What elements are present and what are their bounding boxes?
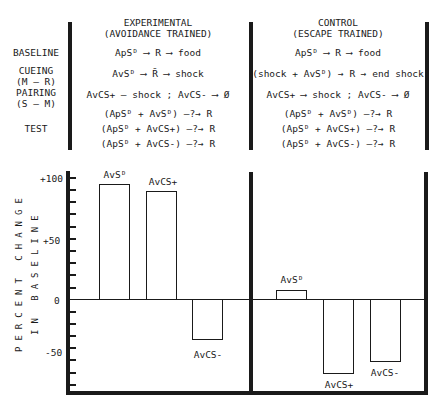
y-tick-label-neg50: -50 <box>45 348 62 358</box>
y-tick-label-100: +100 <box>40 174 63 184</box>
experimental-test-1: (ApSᴰ + AvSᴰ) —?→ R <box>104 109 213 119</box>
experimental-title: EXPERIMENTAL <box>124 18 193 28</box>
bar-label-experimental-avcs-plus: AvCS+ <box>149 177 178 187</box>
control-title: CONTROL <box>318 18 358 28</box>
row-label-cueing: CUEING <box>19 66 53 76</box>
experimental-test-2: (ApSᴰ + AvCS+) —?→ R <box>101 124 215 134</box>
table-divider-left <box>68 22 72 150</box>
row-label-pairing: PAIRING <box>16 88 56 98</box>
bar-control-avcs-minus <box>370 299 401 362</box>
bar-label-control-avcs-minus: AvCS- <box>371 368 400 378</box>
y-axis-label-line1: PERCENT CHANGE <box>14 192 24 352</box>
control-subtitle: (ESCAPE TRAINED) <box>292 29 384 39</box>
bar-label-control-avcs-plus: AvCS+ <box>325 380 354 390</box>
table-divider-right <box>425 22 429 150</box>
panel-divider <box>249 172 253 395</box>
bar-control-avcs-plus <box>323 299 354 374</box>
table-divider-middle <box>249 22 253 150</box>
bar-label-experimental-avsd: AvSᴰ <box>104 170 127 180</box>
y-tick-label-50: +50 <box>43 236 60 246</box>
row-label-test: TEST <box>25 124 48 134</box>
x-axis-bottom <box>66 391 428 395</box>
right-frame <box>424 172 428 395</box>
experimental-pairing: AvCS+ — shock ; AvCS- ⟶ Ø <box>87 90 230 100</box>
experimental-baseline: ApSᴰ ⟶ R ⟶ food <box>115 48 201 58</box>
control-test-1: (ApSᴰ + AvSᴰ) —?→ R <box>284 109 393 119</box>
control-test-2: (ApSᴰ + AvCS+) —?→ R <box>281 124 395 134</box>
bar-experimental-avcs-minus <box>192 299 223 340</box>
bar-experimental-avcs-plus <box>146 191 177 300</box>
bar-label-experimental-avcs-minus: AvCS- <box>194 350 223 360</box>
row-label-pairing-sub: (S — M) <box>16 99 56 109</box>
row-label-cueing-sub: (M — R) <box>16 77 56 87</box>
control-test-3: (ApSᴰ + AvCS-) —?→ R <box>281 139 395 149</box>
control-cueing: (shock + AvSᴰ) → R → end shock <box>252 69 424 79</box>
y-axis-label-line2: IN BASELINE <box>30 209 40 335</box>
control-pairing: AvCS+ ⟶ shock ; AvCS- ⟶ Ø <box>267 90 410 100</box>
y-tick-label-0: 0 <box>54 296 60 306</box>
experimental-test-3: (ApSᴰ + AvCS-) —?→ R <box>101 139 215 149</box>
bar-control-avsd <box>276 290 307 300</box>
y-axis <box>66 171 70 395</box>
row-label-baseline: BASELINE <box>13 48 59 58</box>
bar-label-control-avsd: AvSᴰ <box>281 275 304 285</box>
experimental-subtitle: (AVOIDANCE TRAINED) <box>104 29 213 39</box>
control-baseline: ApSᴰ ⟶ R ⟶ food <box>295 48 381 58</box>
bar-experimental-avsd <box>99 184 130 300</box>
experimental-cueing: AvSᴰ ⟶ R̄ ⟶ shock <box>112 69 204 79</box>
